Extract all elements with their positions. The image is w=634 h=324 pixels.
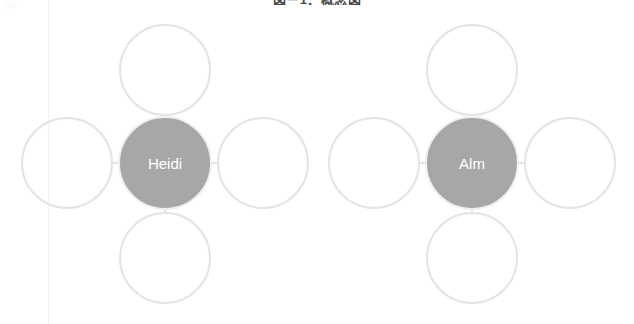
satellite-node-left[interactable] [21, 117, 113, 209]
satellite-node-bottom[interactable] [426, 212, 518, 304]
node-label: Alm [459, 156, 485, 171]
satellite-node-top[interactable] [119, 24, 211, 116]
center-node[interactable]: Alm [425, 116, 519, 210]
diagram-canvas: 図－1．概念図 HeidiAlm [0, 0, 634, 324]
center-node[interactable]: Heidi [118, 116, 212, 210]
node-label: Heidi [148, 156, 182, 171]
satellite-node-bottom[interactable] [119, 212, 211, 304]
satellite-node-right[interactable] [217, 117, 309, 209]
satellite-node-top[interactable] [426, 24, 518, 116]
satellite-node-left[interactable] [328, 117, 420, 209]
satellite-node-right[interactable] [524, 117, 616, 209]
cropped-header-text: 図－1．概念図 [0, 0, 634, 5]
